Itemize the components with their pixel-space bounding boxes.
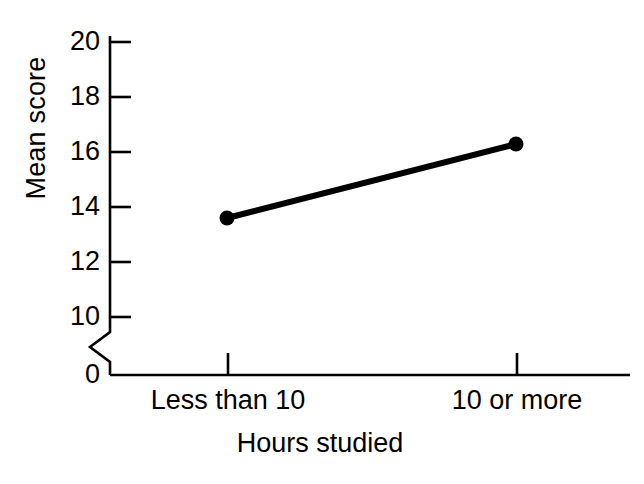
x-axis-ticks [228, 353, 517, 375]
chart-figure: Mean score 20 18 16 14 12 10 0 [0, 0, 644, 484]
data-line-mean-score [227, 144, 516, 218]
x-axis-title: Hours studied [100, 428, 540, 459]
y-axis-break-icon [90, 317, 110, 375]
x-tick-label-less-than-10: Less than 10 [151, 385, 306, 416]
data-point-less-than-10 [220, 211, 235, 226]
x-tick-label-10-or-more: 10 or more [452, 385, 583, 416]
y-axis-ticks [110, 42, 131, 317]
data-point-10-or-more [509, 137, 524, 152]
